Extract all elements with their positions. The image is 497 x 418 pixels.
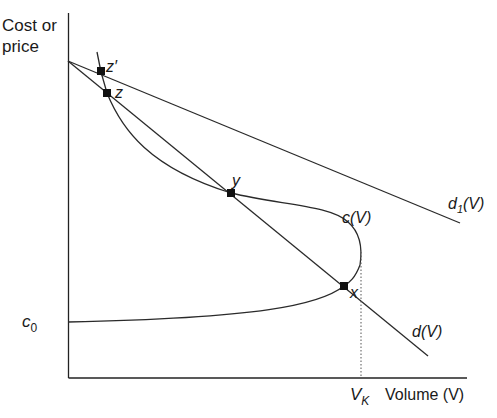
vk-label: VK bbox=[350, 385, 370, 408]
point-y-label: y bbox=[231, 172, 241, 189]
demand-curve-1-label: d1(V) bbox=[448, 195, 484, 215]
point-z-prime-label: z′ bbox=[105, 58, 118, 75]
cost-curve bbox=[68, 52, 361, 322]
point-z-prime bbox=[97, 67, 105, 75]
point-y bbox=[227, 189, 235, 197]
economics-diagram: Cost or price z′ z y x c(V) d(V) d1(V) c… bbox=[0, 0, 497, 418]
demand-curve-label: d(V) bbox=[412, 323, 442, 340]
x-axis-label: Volume (V) bbox=[385, 386, 464, 403]
point-z-label: z bbox=[114, 84, 123, 101]
y-axis-label-line2: price bbox=[2, 37, 39, 56]
cost-curve-label: c(V) bbox=[342, 209, 371, 226]
c0-label: c0 bbox=[22, 312, 38, 335]
point-x bbox=[340, 282, 348, 290]
point-x-label: x bbox=[349, 284, 359, 301]
y-axis-label-line1: Cost or bbox=[2, 16, 57, 35]
point-z bbox=[103, 89, 111, 97]
demand-curve-d1 bbox=[68, 61, 460, 223]
